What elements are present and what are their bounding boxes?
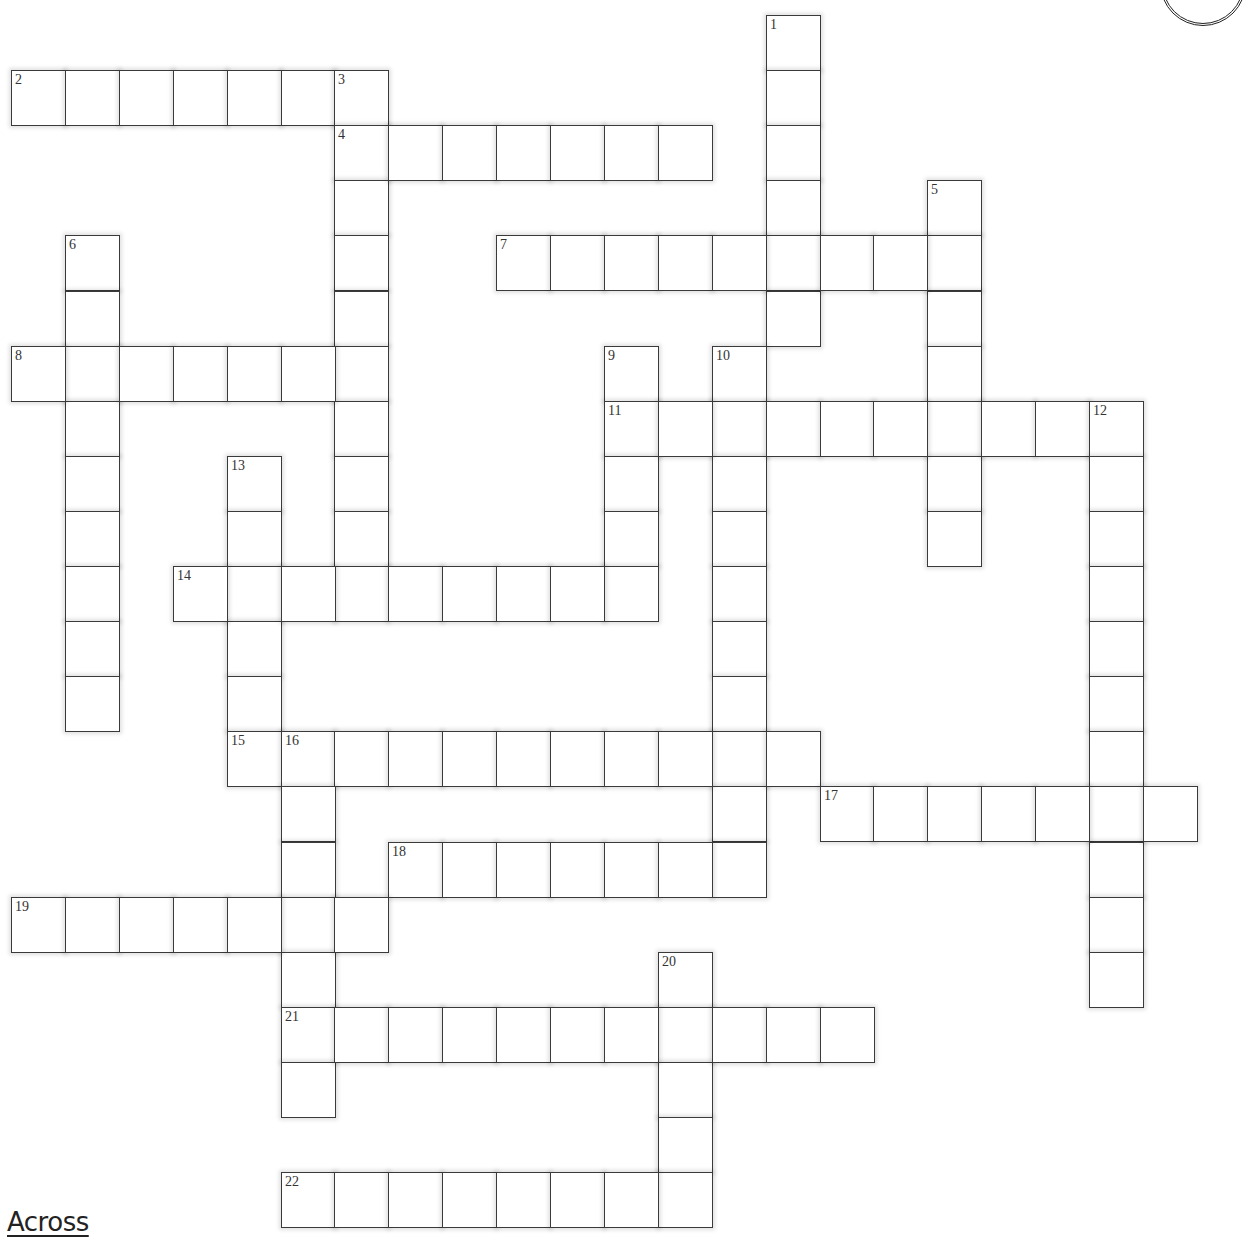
crossword-cell[interactable]: [604, 511, 659, 567]
crossword-cell[interactable]: [496, 1172, 551, 1228]
crossword-cell[interactable]: [281, 1062, 336, 1118]
crossword-cell[interactable]: [1089, 621, 1144, 677]
crossword-cell[interactable]: [658, 1172, 713, 1228]
crossword-cell[interactable]: 20: [658, 952, 713, 1008]
crossword-cell[interactable]: [496, 731, 551, 787]
crossword-cell[interactable]: [334, 180, 389, 236]
crossword-cell[interactable]: [496, 842, 551, 898]
crossword-cell[interactable]: [927, 786, 982, 842]
crossword-cell[interactable]: [766, 180, 821, 236]
crossword-cell[interactable]: [658, 125, 713, 181]
crossword-cell[interactable]: [65, 621, 120, 677]
crossword-cell[interactable]: [334, 566, 389, 622]
crossword-cell[interactable]: [1089, 566, 1144, 622]
crossword-cell[interactable]: [119, 897, 174, 953]
crossword-cell[interactable]: [442, 566, 497, 622]
crossword-cell[interactable]: [227, 70, 282, 126]
crossword-cell[interactable]: [334, 1172, 389, 1228]
crossword-cell[interactable]: [550, 731, 605, 787]
crossword-cell[interactable]: [442, 1007, 497, 1063]
crossword-cell[interactable]: 2: [11, 70, 66, 126]
crossword-cell[interactable]: [604, 566, 659, 622]
crossword-cell[interactable]: 17: [820, 786, 875, 842]
crossword-cell[interactable]: [927, 291, 982, 347]
crossword-cell[interactable]: [65, 456, 120, 512]
crossword-cell[interactable]: [658, 401, 713, 457]
crossword-cell[interactable]: [227, 511, 282, 567]
crossword-cell[interactable]: [334, 511, 389, 567]
crossword-cell[interactable]: 15: [227, 731, 282, 787]
crossword-cell[interactable]: [1035, 401, 1090, 457]
crossword-cell[interactable]: [550, 1007, 605, 1063]
crossword-cell[interactable]: [766, 401, 821, 457]
crossword-cell[interactable]: [1089, 842, 1144, 898]
crossword-cell[interactable]: [766, 235, 821, 291]
crossword-cell[interactable]: [604, 1007, 659, 1063]
crossword-cell[interactable]: [820, 1007, 875, 1063]
crossword-cell[interactable]: [496, 1007, 551, 1063]
crossword-cell[interactable]: 4: [334, 125, 389, 181]
crossword-cell[interactable]: [65, 566, 120, 622]
crossword-cell[interactable]: [981, 401, 1036, 457]
crossword-cell[interactable]: [442, 731, 497, 787]
crossword-cell[interactable]: 14: [173, 566, 228, 622]
crossword-cell[interactable]: [658, 235, 713, 291]
crossword-cell[interactable]: [281, 346, 336, 402]
crossword-cell[interactable]: [388, 731, 443, 787]
crossword-cell[interactable]: [981, 786, 1036, 842]
crossword-cell[interactable]: [873, 401, 928, 457]
crossword-cell[interactable]: [550, 1172, 605, 1228]
crossword-cell[interactable]: [334, 897, 389, 953]
crossword-cell[interactable]: [766, 1007, 821, 1063]
crossword-cell[interactable]: [388, 125, 443, 181]
crossword-cell[interactable]: [927, 235, 982, 291]
crossword-cell[interactable]: [658, 1062, 713, 1118]
crossword-cell[interactable]: [65, 291, 120, 347]
crossword-cell[interactable]: [388, 1007, 443, 1063]
crossword-cell[interactable]: 21: [281, 1007, 336, 1063]
crossword-cell[interactable]: [712, 511, 767, 567]
crossword-cell[interactable]: [1089, 676, 1144, 732]
crossword-cell[interactable]: [334, 456, 389, 512]
crossword-cell[interactable]: [442, 1172, 497, 1228]
crossword-cell[interactable]: [712, 731, 767, 787]
crossword-cell[interactable]: [281, 842, 336, 898]
crossword-cell[interactable]: [173, 70, 228, 126]
crossword-cell[interactable]: [712, 235, 767, 291]
crossword-cell[interactable]: [227, 676, 282, 732]
crossword-cell[interactable]: [766, 291, 821, 347]
crossword-cell[interactable]: [388, 566, 443, 622]
crossword-cell[interactable]: [766, 731, 821, 787]
crossword-cell[interactable]: [442, 842, 497, 898]
crossword-cell[interactable]: [281, 952, 336, 1008]
crossword-cell[interactable]: [65, 676, 120, 732]
crossword-cell[interactable]: [334, 346, 389, 402]
crossword-cell[interactable]: [712, 566, 767, 622]
crossword-cell[interactable]: [65, 70, 120, 126]
crossword-cell[interactable]: 11: [604, 401, 659, 457]
crossword-cell[interactable]: [927, 456, 982, 512]
crossword-cell[interactable]: [604, 125, 659, 181]
crossword-cell[interactable]: [873, 786, 928, 842]
crossword-cell[interactable]: [281, 566, 336, 622]
crossword-cell[interactable]: [604, 1172, 659, 1228]
crossword-cell[interactable]: [766, 70, 821, 126]
crossword-cell[interactable]: [927, 511, 982, 567]
crossword-cell[interactable]: [766, 125, 821, 181]
crossword-cell[interactable]: [1089, 897, 1144, 953]
crossword-cell[interactable]: 7: [496, 235, 551, 291]
crossword-cell[interactable]: 1: [766, 15, 821, 71]
crossword-cell[interactable]: [442, 125, 497, 181]
crossword-cell[interactable]: [927, 401, 982, 457]
crossword-cell[interactable]: [388, 1172, 443, 1228]
crossword-cell[interactable]: [119, 70, 174, 126]
crossword-cell[interactable]: [550, 235, 605, 291]
crossword-cell[interactable]: 22: [281, 1172, 336, 1228]
crossword-cell[interactable]: [1089, 786, 1144, 842]
crossword-cell[interactable]: [496, 566, 551, 622]
crossword-cell[interactable]: [1089, 456, 1144, 512]
crossword-cell[interactable]: [550, 125, 605, 181]
crossword-cell[interactable]: [496, 125, 551, 181]
crossword-cell[interactable]: [550, 566, 605, 622]
crossword-cell[interactable]: 3: [334, 70, 389, 126]
